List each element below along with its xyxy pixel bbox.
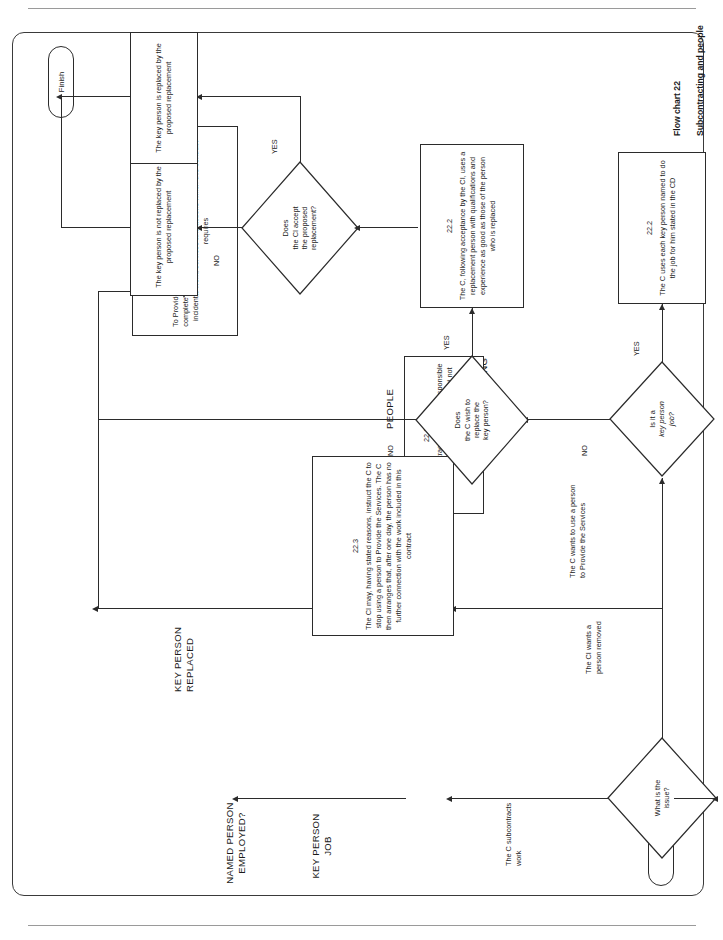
page-rule-top bbox=[28, 8, 696, 9]
figure-caption-line1: Flow chart 22 bbox=[672, 0, 684, 136]
decision-replace-line4: key person? bbox=[481, 400, 490, 440]
page: Start Finish What is the issue? The C su… bbox=[0, 0, 723, 940]
label-keyjob-no: NO bbox=[580, 445, 589, 456]
decision-replace-line1: Does bbox=[453, 411, 462, 428]
figure-caption: Flow chart 22 Subcontracting and people bbox=[660, 0, 718, 136]
group-label-key-person-job: KEY PERSON JOB bbox=[310, 786, 334, 906]
arrowhead-issue-to-22-1 bbox=[446, 796, 452, 802]
edge-accept-no bbox=[202, 227, 242, 228]
box-22-3-clause: 22.3 bbox=[352, 539, 360, 553]
arrowhead-replace-yes bbox=[469, 308, 475, 314]
decision-accept-line3: the proposed bbox=[300, 207, 309, 250]
arrowhead-22-1-to-11-2-6 bbox=[232, 796, 238, 802]
label-keyjob-yes: YES bbox=[632, 341, 641, 356]
label-accept-no: NO bbox=[212, 255, 221, 266]
label-replace-no: NO bbox=[386, 445, 395, 456]
arrowhead-keyjob-yes bbox=[659, 304, 665, 310]
arrowhead-start-to-issue bbox=[712, 796, 718, 802]
box-key-person-replaced: The key person is replaced by the propos… bbox=[130, 32, 198, 164]
branch-label-subcontracts-work: The C subcontracts work bbox=[504, 746, 524, 866]
box-key-person-named-in-cd: 22.2 The C uses each key person named to… bbox=[618, 152, 706, 304]
edge-issue-to-22-3 bbox=[456, 608, 663, 609]
flowchart-canvas: Start Finish What is the issue? The C su… bbox=[12, 32, 704, 896]
edge-accept-yes-v bbox=[202, 96, 301, 97]
edge-repl-to-accept bbox=[360, 227, 418, 228]
decision-replace-line2: the C wish to bbox=[463, 399, 472, 441]
box-22-3-text: The CI may, having stated reasons, instr… bbox=[364, 462, 413, 630]
flowchart-rotation-wrapper: Start Finish What is the issue? The C su… bbox=[12, 32, 704, 896]
box-22-2-cd-clause: 22.2 bbox=[646, 221, 654, 235]
decision-accept-line2: the CI accept bbox=[291, 207, 300, 250]
group-label-named-person-employed: NAMED PERSON EMPLOYED? bbox=[224, 768, 248, 918]
edge-accept-yes-h bbox=[300, 96, 301, 162]
decision-does-c-wish-to-replace: Does the C wish to replace the key perso… bbox=[414, 354, 530, 486]
edge-keyjob-yes bbox=[662, 304, 663, 362]
decision-accept-line4: replacement? bbox=[309, 206, 318, 250]
edge-not-replaced-to-finish-rail bbox=[61, 227, 131, 228]
branch-label-use-a-person: The C wants to use a person to Provide t… bbox=[568, 448, 588, 578]
box-not-replaced-text: The key person is not replaced by the pr… bbox=[154, 164, 174, 290]
decision-keyjob-line3: job? bbox=[667, 412, 676, 426]
arrowhead-to-finish bbox=[56, 94, 62, 100]
box-22-2-cd-text: The C uses each key person named to do t… bbox=[658, 158, 678, 298]
box-replacement-person-qualifications: 22.2 The C, following acceptance by the … bbox=[420, 144, 524, 308]
decision-keyjob-line2: key person bbox=[657, 401, 666, 437]
edge-22-1-to-11-2-6 bbox=[238, 798, 406, 799]
box-22-2-repl-text: The C, following acceptance by the CI, u… bbox=[458, 150, 497, 302]
edge-replaced-to-finish-rail bbox=[61, 96, 131, 97]
decision-keyjob-line1: Is it a bbox=[648, 410, 657, 427]
decision-accept-line1: Does bbox=[281, 219, 290, 236]
group-label-people: PEOPLE bbox=[384, 389, 396, 429]
decision-does-ci-accept-replacement: Does the CI accept the proposed replacem… bbox=[240, 160, 360, 296]
edge-issue-right-2 bbox=[662, 478, 663, 738]
edge-replace-yes bbox=[472, 308, 473, 356]
edge-issue-to-subcontracting bbox=[452, 798, 608, 799]
edge-cd-to-replace-decision bbox=[528, 419, 574, 420]
decision-what-is-the-issue-line1: What is the issue? bbox=[653, 780, 672, 817]
box-22-2-repl-clause: 22.2 bbox=[446, 219, 454, 233]
group-label-key-person-replaced: KEY PERSON REPLACED bbox=[172, 627, 196, 692]
box-replaced-text: The key person is replaced by the propos… bbox=[154, 38, 174, 158]
edge-replace-no-to-toprail bbox=[98, 419, 416, 420]
decision-is-it-a-key-person-job: Is it a key person job? bbox=[608, 360, 716, 478]
box-key-person-not-replaced: The key person is not replaced by the pr… bbox=[130, 158, 198, 296]
decision-replace-line3: replace the bbox=[472, 402, 481, 438]
edge-top-rail bbox=[98, 291, 99, 609]
edge-finish-rail bbox=[61, 96, 62, 228]
edge-keyjob-no bbox=[572, 419, 610, 420]
label-replace-yes: YES bbox=[442, 335, 451, 350]
label-accept-yes: YES bbox=[270, 139, 279, 154]
edge-22-3-to-toprail bbox=[98, 608, 312, 609]
page-rule-bottom bbox=[28, 925, 696, 926]
finish-label: Finish bbox=[57, 72, 66, 92]
arrowhead-issue-to-keyjob bbox=[659, 478, 665, 484]
arrowhead-repl-to-accept bbox=[354, 225, 360, 231]
figure-caption-line2: Subcontracting and people bbox=[695, 0, 707, 136]
